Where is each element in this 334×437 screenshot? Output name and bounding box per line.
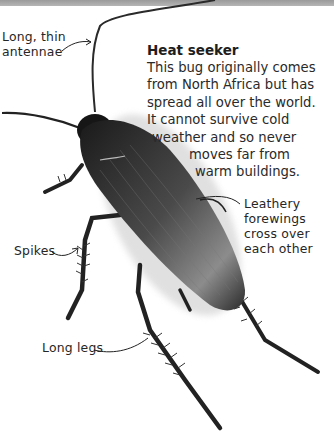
info-line: from North Africa but has [147, 76, 334, 93]
info-line: weather and so never [147, 129, 334, 146]
label-antennae: Long, thin antennae [2, 29, 62, 59]
label-spikes: Spikes [14, 243, 55, 258]
info-line: spread all over the world. [147, 94, 334, 111]
label-antennae-line1: Long, thin [2, 29, 62, 44]
label-forewings-line4: each other [244, 241, 313, 256]
info-line: This bug originally comes [147, 59, 334, 76]
antenna-left [2, 113, 80, 128]
label-forewings: Leathery forewings cross over each other [244, 196, 313, 256]
arrow-antennae [62, 41, 91, 51]
label-legs: Long legs [42, 340, 103, 355]
label-forewings-line2: forewings [244, 211, 313, 226]
label-forewings-line3: cross over [244, 226, 313, 241]
info-line: moves far from [147, 146, 334, 163]
info-box: Heat seeker This bug originally comes fr… [147, 42, 334, 181]
label-forewings-line1: Leathery [244, 196, 313, 211]
info-line: warm buildings. [147, 163, 334, 180]
label-antennae-line2: antennae [2, 44, 62, 59]
info-title: Heat seeker [147, 42, 334, 59]
info-line: It cannot survive cold [147, 111, 334, 128]
